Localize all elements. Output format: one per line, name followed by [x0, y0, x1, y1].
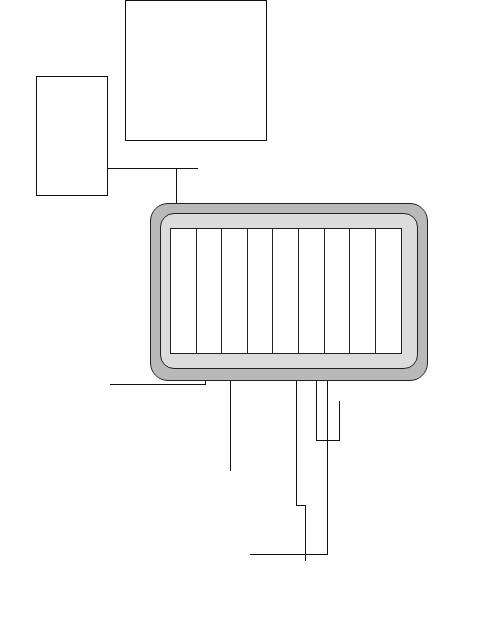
menu-item-inverse[interactable] [273, 229, 299, 353]
connector-line [327, 355, 328, 555]
menu-item-job[interactable] [197, 229, 223, 353]
menu-item-file[interactable] [171, 229, 197, 353]
submenu-standard [100, 244, 101, 245]
menu-item-cogo[interactable] [299, 229, 325, 353]
menu-item-roads[interactable] [350, 229, 376, 353]
submenu-gps-rtk [125, 0, 267, 141]
connector-line [339, 401, 340, 441]
connector-line [250, 554, 328, 555]
main-menu [170, 228, 402, 354]
connector-line [316, 440, 340, 441]
connector-line [305, 505, 306, 561]
connector-line [110, 384, 205, 385]
menu-item-curve[interactable] [325, 229, 351, 353]
menu-item-adjust[interactable] [376, 229, 402, 353]
menu-item-stakeout[interactable] [248, 229, 274, 353]
submenu-gps-post-processing [36, 76, 108, 196]
menu-item-survey[interactable] [222, 229, 248, 353]
menu-tree-diagram [0, 0, 484, 621]
